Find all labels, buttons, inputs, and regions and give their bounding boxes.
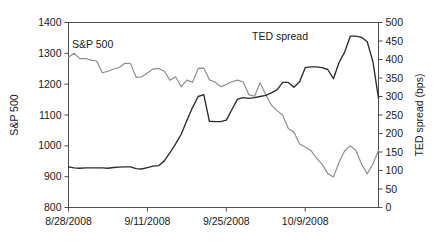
y-tick-label: 800 bbox=[44, 201, 62, 213]
chart-figure: 80090010001100120013001400 0501001502002… bbox=[0, 0, 440, 247]
y2-tick-label: 150 bbox=[386, 146, 404, 158]
y-tick-label: 1400 bbox=[38, 16, 62, 28]
y-tick-label: 1100 bbox=[39, 109, 62, 121]
x-tick-label: 10/9/2008 bbox=[282, 215, 329, 227]
chart-background bbox=[0, 0, 440, 247]
x-tick-label: 9/11/2008 bbox=[124, 215, 170, 227]
y-tick-label: 1300 bbox=[38, 47, 62, 59]
x-tick-label: 8/28/2008 bbox=[45, 215, 92, 227]
y2-tick-label: 250 bbox=[386, 109, 404, 121]
y-tick-label: 1200 bbox=[38, 78, 62, 90]
y2-tick-label: 100 bbox=[386, 164, 404, 176]
y-tick-label: 900 bbox=[44, 170, 62, 182]
series-label-ted-spread: TED spread bbox=[252, 30, 308, 42]
chart-svg: 80090010001100120013001400 0501001502002… bbox=[0, 0, 440, 247]
y-tick-label: 1000 bbox=[38, 139, 62, 151]
y2-tick-label: 300 bbox=[386, 90, 404, 102]
y2-tick-label: 500 bbox=[386, 16, 404, 28]
y2-tick-label: 200 bbox=[386, 127, 404, 139]
y2-tick-label: 400 bbox=[386, 53, 404, 65]
y-axis-title: S&P 500 bbox=[8, 94, 20, 135]
series-label-sp500: S&P 500 bbox=[72, 38, 113, 50]
y2-axis-title: TED spread (bps) bbox=[413, 74, 425, 157]
y2-tick-label: 50 bbox=[386, 183, 398, 195]
y2-tick-label: 0 bbox=[386, 201, 392, 213]
y2-tick-label: 450 bbox=[386, 35, 404, 47]
x-tick-label: 9/25/2008 bbox=[203, 215, 250, 227]
y2-tick-label: 350 bbox=[386, 72, 404, 84]
